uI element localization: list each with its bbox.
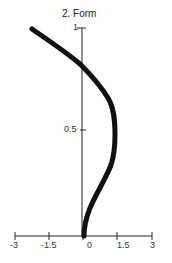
x-tick-label: 1.5 — [117, 240, 130, 250]
y-tick-label: 0.5 — [64, 124, 77, 134]
x-tick-label: -1.5 — [41, 240, 57, 250]
y-tick-label: 1 — [73, 22, 78, 32]
x-tick-label: 0 — [87, 240, 92, 250]
x-tick-label: 3 — [150, 240, 155, 250]
x-tick-label: -3 — [10, 240, 18, 250]
chart-plot — [0, 0, 172, 263]
